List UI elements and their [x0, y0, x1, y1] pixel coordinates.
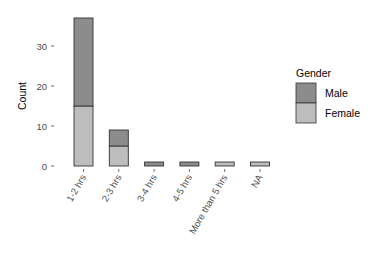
x-tick-label: 3-4 hrs	[135, 172, 159, 203]
legend: Gender Male Female	[296, 67, 360, 123]
bars	[74, 18, 270, 166]
legend-title: Gender	[296, 67, 332, 79]
x-tick-label: More than 5 hrs	[187, 172, 230, 235]
x-tick-label: 4-5 hrs	[170, 172, 194, 203]
legend-label-female: Female	[325, 107, 360, 119]
bar-male	[145, 162, 164, 166]
x-axis: 1-2 hrs2-3 hrs3-4 hrs4-5 hrsMore than 5 …	[64, 169, 265, 236]
bar-female	[251, 162, 270, 166]
bar-female	[109, 146, 128, 166]
y-tick-label: 0	[42, 161, 47, 172]
y-tick-label: 30	[36, 41, 47, 52]
y-tick-label: 10	[36, 121, 47, 132]
x-tick-label: NA	[249, 172, 265, 190]
y-tick-label: 20	[36, 81, 47, 92]
x-tick-label: 1-2 hrs	[64, 172, 88, 203]
y-axis-title: Count	[16, 82, 28, 110]
bar-male	[109, 130, 128, 146]
bar-male	[74, 18, 93, 106]
legend-key-female	[296, 103, 316, 123]
bar-male	[180, 162, 199, 166]
stacked-bar-chart: 0102030 Count 1-2 hrs2-3 hrs3-4 hrs4-5 h…	[0, 0, 377, 263]
legend-key-male	[296, 83, 316, 103]
x-tick-label: 2-3 hrs	[99, 172, 123, 203]
bar-female	[215, 162, 234, 166]
y-axis: 0102030	[36, 41, 54, 172]
bar-female	[74, 106, 93, 166]
legend-label-male: Male	[325, 87, 348, 99]
